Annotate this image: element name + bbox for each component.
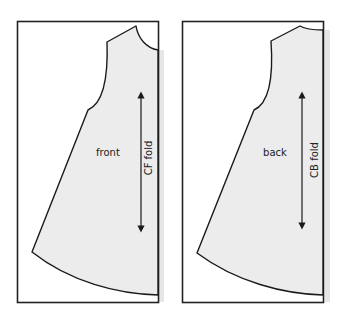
pattern-diagram: front CF fold back CB fold (0, 0, 345, 318)
front-label: front (96, 147, 120, 158)
cb-fold-label: CB fold (309, 142, 320, 178)
back-pattern-piece: back CB fold (183, 22, 331, 303)
front-pattern-piece: front CF fold (18, 22, 165, 303)
cf-fold-label: CF fold (143, 141, 154, 176)
front-frame-shadow (159, 50, 164, 302)
back-frame-shadow (325, 30, 330, 302)
back-label: back (263, 147, 287, 158)
